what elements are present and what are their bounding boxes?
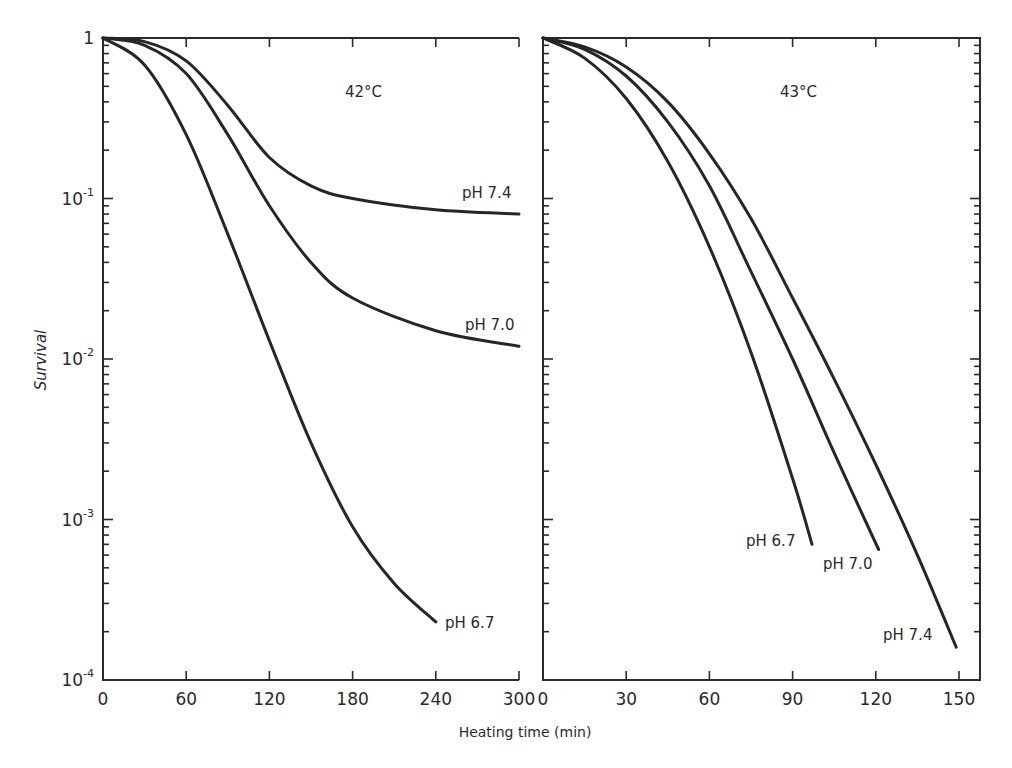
curve-label-left-ph74: pH 7.4	[462, 184, 511, 202]
x-tick-label: 0	[538, 689, 549, 709]
x-tick-label: 30	[615, 689, 637, 709]
y-tick-label: 10-3	[61, 507, 94, 530]
right-curves	[543, 38, 956, 647]
y-tick-label: 10-4	[61, 667, 94, 690]
left-panel: 060120180240300 110-110-210-310-4 42°C p…	[61, 28, 535, 709]
x-tick-label: 120	[860, 689, 892, 709]
left-panel-frame	[103, 38, 519, 680]
right-temperature-label: 43°C	[780, 83, 817, 101]
right-x-ticks: 0306090120150	[538, 38, 976, 709]
x-tick-label: 240	[420, 689, 452, 709]
x-tick-label: 300	[503, 689, 535, 709]
y-axis-label: Survival	[32, 329, 50, 390]
left-y-ticks: 110-110-210-310-4	[61, 28, 113, 690]
curve-label-right-ph70: pH 7.0	[823, 555, 872, 573]
x-tick-label: 90	[782, 689, 804, 709]
x-tick-label: 60	[175, 689, 197, 709]
survival-chart: 060120180240300 110-110-210-310-4 42°C p…	[0, 0, 1012, 768]
y-tick-label: 10-1	[61, 186, 94, 209]
x-axis-label: Heating time (min)	[459, 724, 592, 740]
survival-curve-ph74	[103, 38, 519, 214]
survival-curve-ph70	[543, 38, 879, 550]
survival-curve-ph67	[103, 38, 436, 622]
survival-curve-ph74	[543, 38, 956, 647]
right-panel: 0306090120150 43°C pH 6.7 pH 7.0 pH 7.4	[538, 38, 980, 709]
left-x-ticks: 060120180240300	[98, 38, 536, 709]
y-tick-label: 1	[83, 28, 94, 48]
x-tick-label: 150	[943, 689, 975, 709]
right-y-ticks	[543, 45, 980, 680]
curve-label-right-ph74: pH 7.4	[883, 626, 932, 644]
left-curves	[103, 38, 519, 622]
left-temperature-label: 42°C	[345, 83, 382, 101]
curve-label-left-ph67: pH 6.7	[445, 614, 494, 632]
x-tick-label: 60	[699, 689, 721, 709]
y-tick-label: 10-2	[61, 346, 94, 369]
curve-label-right-ph67: pH 6.7	[746, 532, 795, 550]
right-panel-frame	[543, 38, 980, 680]
curve-label-left-ph70: pH 7.0	[465, 316, 514, 334]
x-tick-label: 180	[336, 689, 368, 709]
x-tick-label: 0	[98, 689, 109, 709]
x-tick-label: 120	[253, 689, 285, 709]
survival-curve-ph70	[103, 38, 519, 346]
